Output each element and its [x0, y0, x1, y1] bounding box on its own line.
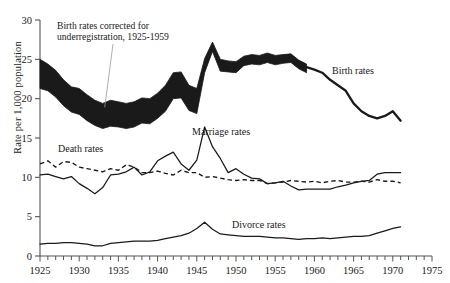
y-tick-label: 30 [22, 15, 33, 26]
x-tick-label: 1950 [226, 265, 247, 276]
chart-plot-area: 0510152025301925193019351940194519501955… [0, 0, 450, 283]
y-tick-label: 0 [27, 251, 32, 262]
x-tick-label: 1975 [422, 265, 443, 276]
series-label-marriage-rates: Marriage rates [192, 126, 250, 137]
x-tick-label: 1965 [343, 265, 364, 276]
x-tick-label: 1930 [69, 265, 90, 276]
death-rate-line [40, 161, 401, 184]
series-label-birth-rates: Birth rates [332, 65, 374, 76]
birth-rate-band [40, 42, 307, 129]
y-tick-label: 25 [22, 54, 33, 65]
y-tick-label: 5 [27, 211, 32, 222]
annotation-line-1: Birth rates corrected for [57, 20, 150, 31]
divorce-rate-line [40, 222, 401, 246]
x-tick-label: 1960 [304, 265, 325, 276]
x-tick-label: 1940 [147, 265, 168, 276]
annotation-line-2: underregistration, 1925-1959 [57, 31, 169, 42]
x-tick-label: 1970 [382, 265, 403, 276]
series-label-divorce-rates: Divorce rates [232, 219, 286, 230]
marriage-rate-line [40, 127, 401, 194]
annotation-leader-line [105, 44, 113, 107]
x-tick-label: 1945 [186, 265, 207, 276]
x-tick-label: 1935 [108, 265, 129, 276]
y-tick-label: 15 [22, 133, 33, 144]
y-tick-label: 20 [22, 93, 33, 104]
y-tick-label: 10 [22, 172, 33, 183]
x-tick-label: 1955 [265, 265, 286, 276]
series-label-death-rates: Death rates [58, 143, 103, 154]
x-tick-label: 1925 [30, 265, 51, 276]
chart-root: Rate per 1,000 population 05101520253019… [0, 0, 450, 283]
